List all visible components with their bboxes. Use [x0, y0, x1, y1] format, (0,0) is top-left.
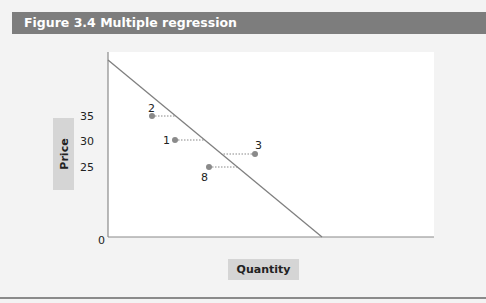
bottom-rule [0, 297, 486, 299]
origin-label: 0 [98, 234, 105, 247]
point-label: 2 [148, 102, 155, 115]
plot-area [108, 52, 434, 237]
y-axis-label: Price [57, 138, 70, 169]
y-tick-label: 25 [80, 161, 94, 174]
y-tick-label: 30 [80, 135, 94, 148]
data-point [172, 137, 178, 143]
point-label: 1 [163, 134, 170, 147]
x-axis-label: Quantity [228, 259, 299, 280]
data-point [206, 164, 212, 170]
point-label: 3 [255, 139, 262, 152]
y-tick-label: 35 [80, 110, 94, 123]
y-axis-label-box: Price [53, 118, 74, 190]
point-label: 8 [201, 171, 208, 184]
